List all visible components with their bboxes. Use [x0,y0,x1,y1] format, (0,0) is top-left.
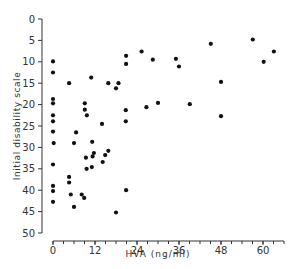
x-tick-label: 12 [89,245,102,256]
data-point [82,196,86,200]
data-point [114,86,118,90]
data-point [51,162,55,166]
y-tick-label: 45 [22,206,35,217]
data-point [85,113,89,117]
data-point [72,141,76,145]
y-axis-label: Initial disability scale [12,72,22,181]
y-tick-label: 40 [22,185,35,196]
data-point [51,97,55,101]
y-tick-label: 5 [29,35,35,46]
scatter-chart: 0510152025303540455001224364860 HVA (ng/… [0,0,298,269]
data-point [51,189,55,193]
data-point [100,122,104,126]
data-point [144,105,148,109]
data-point [90,140,94,144]
data-point [52,141,56,145]
data-point [209,42,213,46]
data-point [69,192,73,196]
data-point [67,175,71,179]
data-point [91,154,95,158]
data-point [67,81,71,85]
data-point [51,70,55,74]
data-point [188,102,192,106]
data-point [83,101,87,105]
data-point [114,210,118,214]
x-tick-label: 60 [257,245,270,256]
data-point [262,60,266,64]
data-point [124,108,128,112]
data-point [90,165,94,169]
data-point [51,119,55,123]
y-tick-label: 30 [22,142,35,153]
data-point [83,108,87,112]
data-point [51,200,55,204]
axes: 0510152025303540455001224364860 [22,14,284,257]
data-point [124,188,128,192]
y-tick-label: 15 [22,78,35,89]
data-point [106,149,110,153]
data-point [124,119,128,123]
data-point [151,58,155,62]
data-point [140,49,144,53]
data-point [219,114,223,118]
data-point [51,130,55,134]
data-point [51,101,55,105]
y-tick-label: 50 [22,228,35,239]
data-point [174,57,178,61]
y-tick-label: 25 [22,121,35,132]
data-point [124,54,128,58]
data-point [51,59,55,63]
data-point [67,180,71,184]
data-point [156,101,160,105]
y-tick-label: 20 [22,99,35,110]
data-point [177,64,181,68]
y-tick-label: 0 [29,14,35,25]
data-point [74,130,78,134]
x-tick-label: 48 [215,245,228,256]
data-point [272,49,276,53]
y-tick-label: 10 [22,56,35,67]
data-points [51,37,276,214]
data-point [80,192,84,196]
data-point [85,167,89,171]
data-point [106,81,110,85]
x-axis-label: HVA (ng/ml) [125,249,190,259]
data-point [116,81,120,85]
data-point [84,156,88,160]
data-point [89,76,93,80]
data-point [72,205,76,209]
data-point [51,184,55,188]
data-point [251,37,255,41]
y-tick-label: 35 [22,163,35,174]
data-point [124,62,128,66]
x-tick-label: 0 [50,245,56,256]
data-point [219,80,223,84]
data-point [101,160,105,164]
data-point [51,113,55,117]
data-point [103,153,107,157]
